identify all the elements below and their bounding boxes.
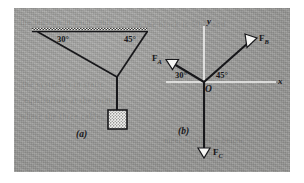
force-b-subscript: B xyxy=(265,38,269,45)
force-c-subscript: C xyxy=(219,152,223,159)
force-c-label: FC xyxy=(213,148,223,159)
origin-label: O xyxy=(205,85,212,95)
force-a-subscript: A xyxy=(158,58,162,65)
figure-page: the tension in each cable of the block i… xyxy=(0,0,304,183)
ceiling-support xyxy=(32,28,148,32)
scanned-figure-panel: the tension in each cable of the block i… xyxy=(14,8,290,172)
y-axis-label: y xyxy=(207,17,211,26)
diagram-b-caption: (b) xyxy=(178,127,189,137)
force-b-vector xyxy=(204,34,257,82)
diagram-a-angle-30-label: 30° xyxy=(57,35,69,44)
cable-a-line xyxy=(38,32,117,77)
force-b-label: FB xyxy=(259,34,269,45)
diagram-a-angle-45-label: 45° xyxy=(124,35,136,44)
force-a-label: FA xyxy=(152,54,162,65)
diagram-b-drawing xyxy=(166,26,276,158)
hanging-block xyxy=(108,110,127,129)
x-axis-label: x xyxy=(278,77,283,86)
diagram-b-angle-45-label: 45° xyxy=(216,71,228,80)
diagram-a-caption: (a) xyxy=(76,130,87,140)
diagram-b-angle-30-label: 30° xyxy=(175,71,187,80)
diagram-a-drawing xyxy=(14,8,290,172)
